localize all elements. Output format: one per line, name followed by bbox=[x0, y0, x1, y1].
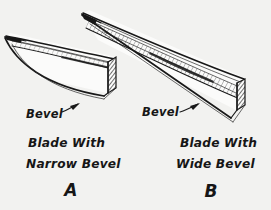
blade-a-end-face-hatching bbox=[108, 57, 116, 93]
blade-a-bevel-label: Bevel bbox=[26, 107, 64, 121]
blade-a-letter: A bbox=[62, 180, 77, 200]
blade-b-caption-line2: Wide Bevel bbox=[176, 157, 255, 171]
blade-a-caption-line2: Narrow Bevel bbox=[26, 157, 121, 171]
blade-bevel-diagram: Blade bevel comparison diagram bbox=[0, 0, 271, 210]
blade-b-end-face-hatching bbox=[237, 79, 245, 110]
blade-a-caption-line1: Blade With bbox=[28, 136, 105, 150]
blade-b-bevel-label: Bevel bbox=[142, 105, 180, 119]
figure-root: Blade bevel comparison diagram bbox=[0, 0, 271, 210]
blade-b-caption-line1: Blade With bbox=[180, 136, 257, 150]
blade-b-letter: B bbox=[204, 181, 217, 201]
